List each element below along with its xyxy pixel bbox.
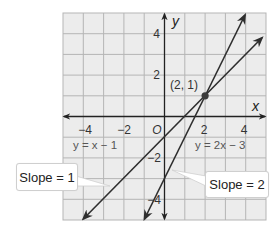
y-tick-neg4: −4 (147, 193, 161, 207)
x-tick-4: 4 (241, 123, 248, 137)
callout-slope-2-text: Slope = 2 (209, 177, 264, 192)
y-axis-label: y (171, 13, 180, 29)
equation-y-equals-x-minus-1: y = x − 1 (73, 139, 117, 151)
x-tick-neg4: −4 (78, 123, 92, 137)
callout-slope-1-text: Slope = 1 (19, 170, 74, 185)
x-tick-2: 2 (201, 123, 208, 137)
callout-slope-2: Slope = 2 (205, 171, 269, 198)
x-tick-neg2: −2 (117, 123, 131, 137)
y-tick-4: 4 (153, 27, 160, 41)
y-tick-neg2: −2 (147, 151, 161, 165)
equation-y-equals-2x-minus-3: y = 2x − 3 (195, 139, 246, 151)
callout-slope-1: Slope = 1 (16, 163, 78, 191)
coordinate-graph: −4 −2 O 2 4 4 2 −2 −4 x y (2, 1) y = x −… (0, 0, 278, 234)
origin-label: O (152, 123, 161, 137)
y-tick-2: 2 (153, 68, 160, 82)
intersection-point (202, 92, 209, 99)
point-label: (2, 1) (170, 78, 198, 92)
x-axis-label: x (251, 98, 260, 114)
